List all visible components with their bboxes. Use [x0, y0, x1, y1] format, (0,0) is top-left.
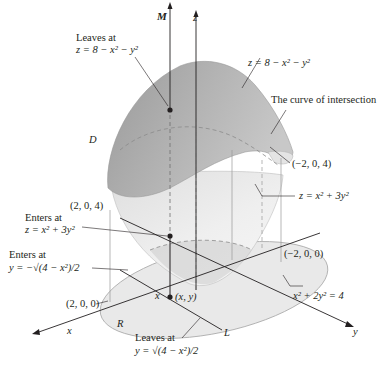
enters-bottom-point	[167, 233, 172, 238]
annotation-enters-z-2: z = x² + 3y²	[25, 224, 75, 236]
annotation-curve-of-intersection: The curve of intersection	[271, 94, 376, 106]
leaves-top-point	[167, 107, 172, 112]
annotation-point-xy: (x, y)	[175, 291, 197, 303]
annotation-point-2-0-4: (2, 0, 4)	[70, 200, 103, 212]
diagram-canvas	[0, 0, 384, 368]
region-label-D: D	[89, 134, 97, 146]
annotation-enters-y-2: y = −√(4 − x²)/2	[9, 262, 79, 274]
annotation-leaves-top-1: Leaves at	[76, 32, 116, 44]
annotation-upper-surface: z = 8 − x² − y²	[248, 57, 310, 69]
annotation-point-neg2-0-4: (−2, 0, 4)	[292, 158, 331, 170]
line-label-L: L	[224, 327, 230, 339]
annotation-leaves-y-1: Leaves at	[135, 332, 175, 344]
annotation-enters-z-1: Enters at	[25, 212, 62, 224]
annotation-point-neg2-0-0: (−2, 0, 0)	[284, 248, 323, 260]
annotation-enters-y-1: Enters at	[9, 249, 46, 261]
annotation-x-mark: x	[155, 290, 160, 302]
axis-label-z: z	[193, 12, 197, 24]
axis-label-M: M	[157, 10, 167, 22]
axis-label-y: y	[353, 326, 358, 338]
region-label-R: R	[117, 318, 123, 330]
annotation-point-2-0-0: (2, 0, 0)	[66, 298, 99, 310]
annotation-leaves-y-2: y = √(4 − x²)/2	[135, 345, 198, 357]
annotation-ellipse: x² + 2y² = 4	[293, 290, 344, 302]
axis-label-x: x	[67, 325, 72, 337]
annotation-lower-surface: z = x² + 3y²	[299, 190, 349, 202]
annotation-leaves-top-2: z = 8 − x² − y²	[76, 44, 138, 56]
